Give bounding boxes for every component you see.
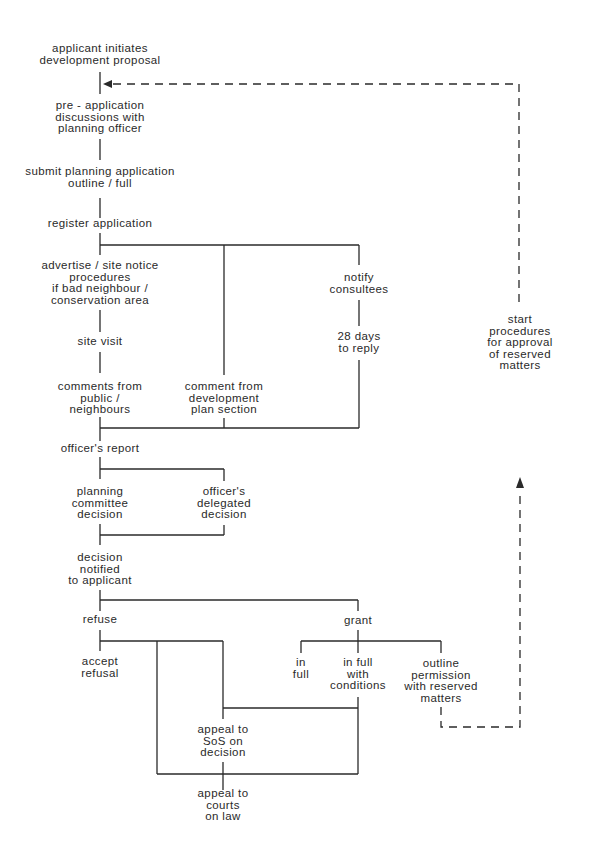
node-accept-refusal: accept refusal [81,656,118,679]
arrow-left-icon [103,80,112,88]
node-register-application: register application [48,218,153,230]
node-comment-devplan: comment from development plan section [185,381,263,416]
node-planning-committee: planning committee decision [72,486,129,521]
node-decision-notified: decision notified to applicant [68,552,132,587]
node-appeal-sos: appeal to SoS on decision [198,724,249,759]
node-start-procedures: start procedures for approval of reserve… [487,314,553,372]
node-site-visit: site visit [78,336,123,348]
node-submit-application: submit planning application outline / fu… [25,166,175,189]
node-outline-permission: outline permission with reserved matters [404,658,478,704]
arrow-up-icon [516,477,524,488]
node-officers-report: officer's report [61,443,140,455]
dashed-start-to-preapp [110,84,519,302]
node-refuse: refuse [83,614,117,626]
node-notify-consultees: notify consultees [330,272,389,295]
node-in-full: in full [293,657,309,680]
node-pre-application: pre - application discussions with plann… [55,100,145,135]
node-28-days: 28 days to reply [337,331,380,354]
planning-process-flowchart: applicant initiates development proposal… [0,0,600,852]
node-applicant: applicant initiates development proposal [39,43,160,66]
node-appeal-courts: appeal to courts on law [198,788,249,823]
node-delegated-decision: officer's delegated decision [197,486,251,521]
node-advertise: advertise / site notice procedures if ba… [41,260,158,306]
node-comments-public: comments from public / neighbours [58,381,142,416]
node-grant: grant [344,615,372,627]
node-in-full-conditions: in full with conditions [330,657,386,692]
